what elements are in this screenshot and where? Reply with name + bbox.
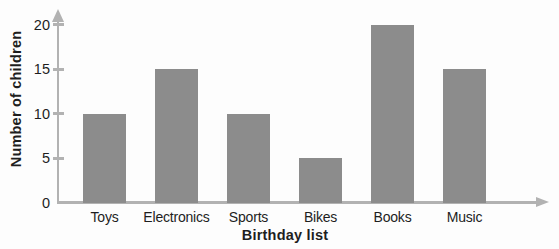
bar-toys <box>83 114 126 203</box>
y-tick-mark-5 <box>53 157 64 160</box>
bar-sports <box>227 114 270 203</box>
y-tick-mark-15 <box>53 68 64 71</box>
bar-electronics <box>155 69 198 203</box>
y-tick-label-15: 15 <box>14 60 50 78</box>
y-tick-label-10: 10 <box>14 105 50 123</box>
y-axis-line <box>57 18 60 204</box>
x-axis-arrow-icon <box>536 197 549 207</box>
birthday-list-bar-chart: Number of children 05101520 ToysElectron… <box>0 0 559 249</box>
y-tick-label-20: 20 <box>14 16 50 34</box>
y-axis-arrow-icon <box>52 9 64 22</box>
y-tick-label-5: 5 <box>14 149 50 167</box>
y-tick-mark-10 <box>53 112 64 115</box>
bar-bikes <box>299 158 342 203</box>
y-tick-label-0: 0 <box>14 194 50 212</box>
x-axis-title: Birthday list <box>200 227 370 243</box>
y-tick-mark-20 <box>53 23 64 26</box>
bar-music <box>443 69 486 203</box>
bar-books <box>371 25 414 203</box>
x-category-label-music: Music <box>420 209 510 225</box>
